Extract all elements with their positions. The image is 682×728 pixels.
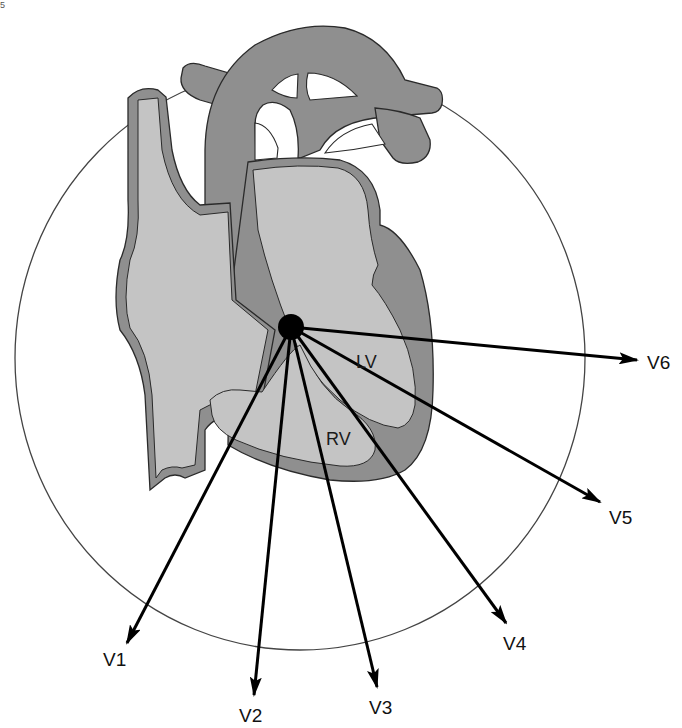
label-rv: RV [326,430,351,448]
label-v5: V5 [609,508,632,527]
electrical-center-dot [278,314,304,340]
label-v6: V6 [647,353,670,372]
corner-mark: 5 [0,0,5,10]
label-v2: V2 [239,706,262,725]
label-v3: V3 [369,698,392,717]
descending-aorta [375,108,430,163]
label-v1: V1 [103,650,126,669]
arch-window-3 [255,123,278,160]
label-v4: V4 [503,634,526,653]
heart-lead-diagram [0,0,682,728]
label-lv: LV [356,353,377,371]
